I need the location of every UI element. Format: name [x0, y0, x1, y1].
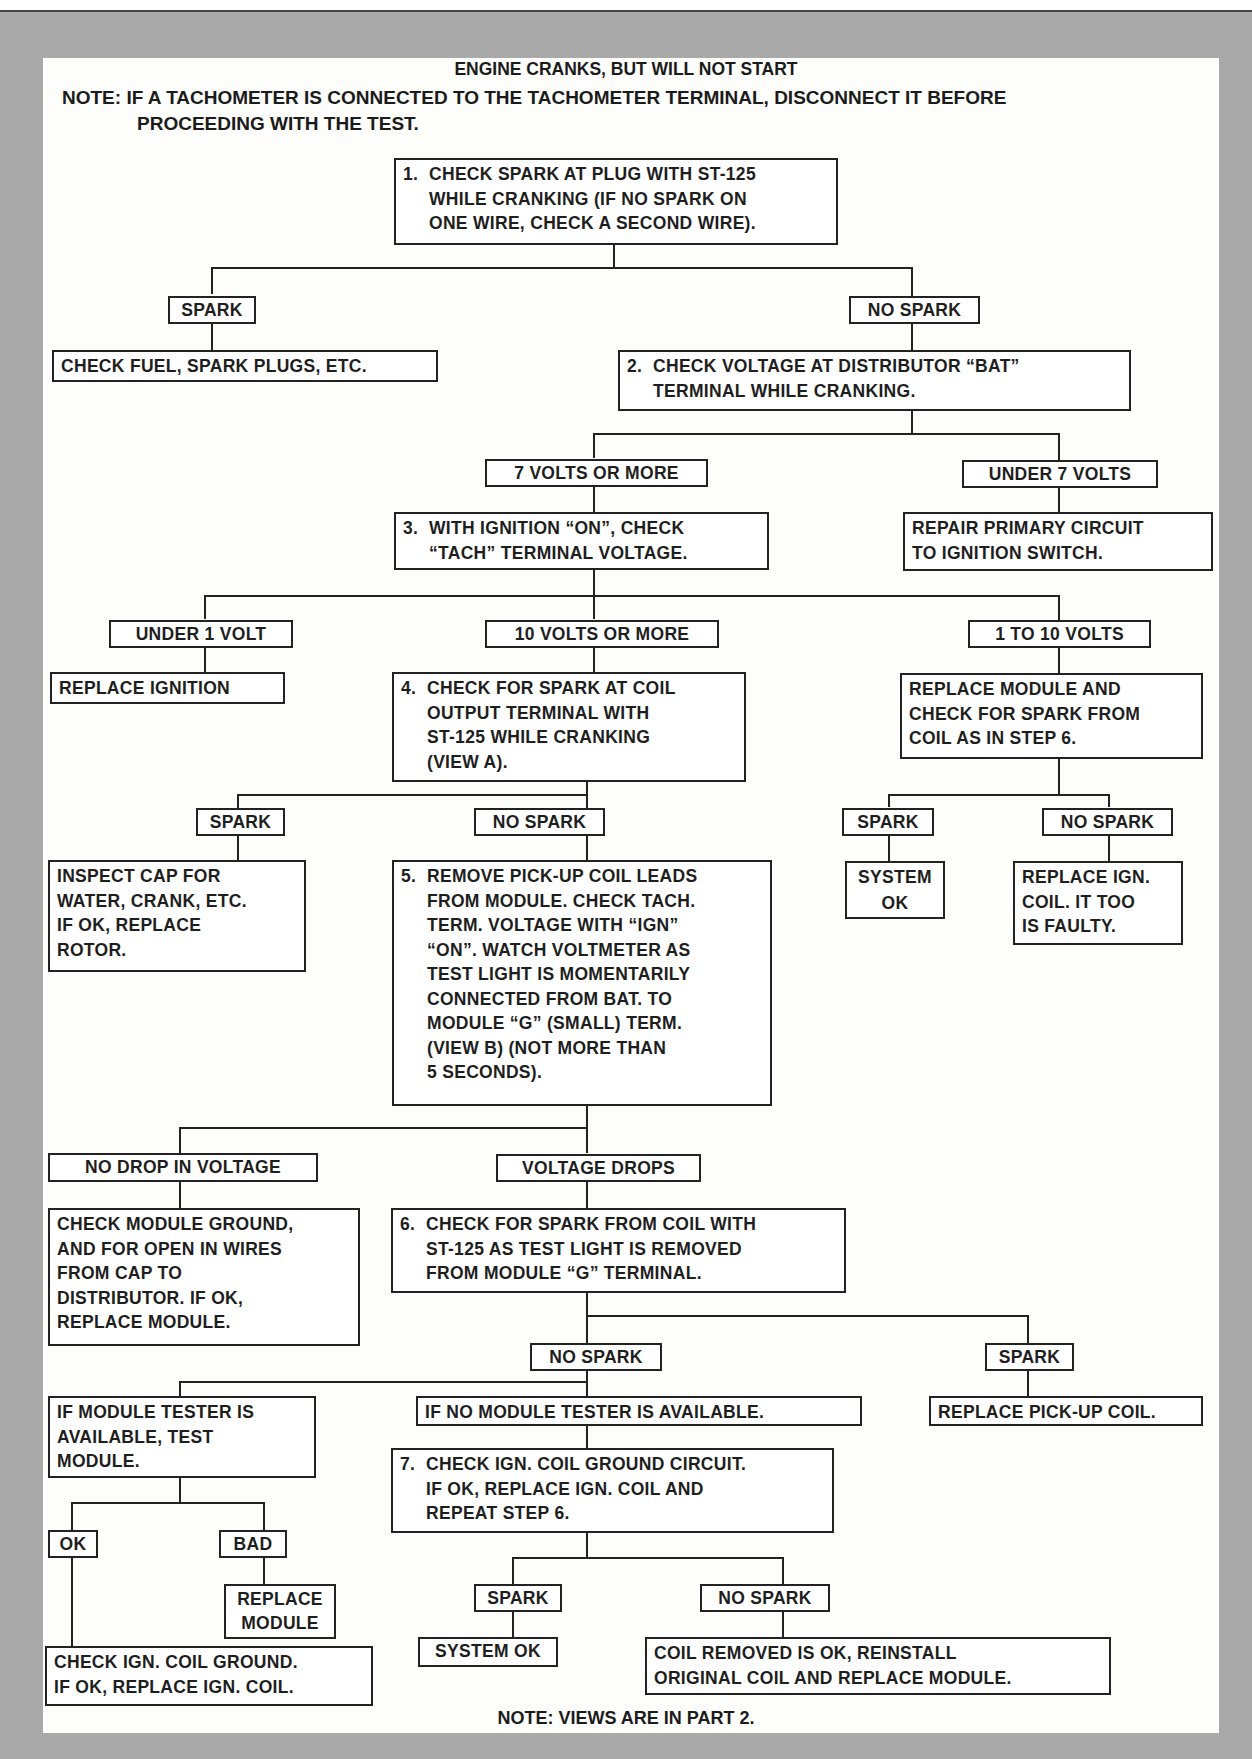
- box-text: ROTOR.: [57, 938, 297, 963]
- box-text: REPLACE MODULE AND: [909, 677, 1194, 702]
- step-number: 5.: [401, 864, 427, 889]
- step-text: CONNECTED FROM BAT. TO: [401, 987, 763, 1012]
- step-number: 7.: [400, 1452, 426, 1477]
- box-text: MODULE: [232, 1611, 328, 1635]
- box-text: REPLACE IGNITION: [59, 676, 276, 701]
- box-text: CHECK MODULE GROUND,: [57, 1212, 351, 1237]
- page-number: 166: [2, 0, 41, 3]
- under-one-volt-label: UNDER 1 VOLT: [109, 620, 293, 648]
- no-spark-label: NO SPARK: [849, 296, 980, 324]
- step-text: ST-125 WHILE CRANKING: [401, 725, 737, 750]
- box-text: IF OK, REPLACE: [57, 913, 297, 938]
- box-text: REPLACE PICK-UP COIL.: [938, 1400, 1194, 1425]
- box-text: REPLACE MODULE.: [57, 1310, 351, 1335]
- box-text: FROM CAP TO: [57, 1261, 351, 1286]
- spark-label: SPARK: [474, 1584, 562, 1612]
- under-seven-volts-label: UNDER 7 VOLTS: [962, 460, 1158, 488]
- box-text: SYSTEM: [853, 864, 937, 890]
- spark-label: SPARK: [985, 1343, 1074, 1371]
- coil-removed-ok-box: COIL REMOVED IS OK, REINSTALL ORIGINAL C…: [645, 1637, 1111, 1695]
- running-title: MOTOR AUTOMOTIVE MECHANICS: [70, 0, 461, 3]
- step-text: WHILE CRANKING (IF NO SPARK ON: [403, 187, 829, 212]
- box-text: WATER, CRANK, ETC.: [57, 889, 297, 914]
- box-text: INSPECT CAP FOR: [57, 864, 297, 889]
- voltage-drops-label: VOLTAGE DROPS: [496, 1154, 701, 1182]
- step-number: 3.: [403, 516, 429, 541]
- step-text: OUTPUT TERMINAL WITH: [401, 701, 737, 726]
- check-module-ground-box: CHECK MODULE GROUND, AND FOR OPEN IN WIR…: [48, 1208, 360, 1346]
- box-text: REPLACE IGN.: [1022, 865, 1174, 890]
- box-text: IF OK, REPLACE IGN. COIL.: [54, 1675, 364, 1700]
- step-text: CHECK IGN. COIL GROUND CIRCUIT.: [426, 1454, 746, 1474]
- step-text: CHECK FOR SPARK AT COIL: [427, 678, 676, 698]
- ok-label: OK: [48, 1530, 98, 1558]
- no-spark-label: NO SPARK: [1042, 808, 1173, 836]
- step-4-box: 4.CHECK FOR SPARK AT COIL OUTPUT TERMINA…: [392, 672, 746, 782]
- step-text: 5 SECONDS).: [401, 1060, 763, 1085]
- step-6-box: 6.CHECK FOR SPARK FROM COIL WITH ST-125 …: [391, 1208, 846, 1293]
- box-text: IF NO MODULE TESTER IS AVAILABLE.: [425, 1400, 853, 1425]
- replace-module-box: REPLACE MODULE: [224, 1584, 336, 1639]
- box-text: COIL. IT TOO: [1022, 890, 1174, 915]
- box-text: TO IGNITION SWITCH.: [912, 541, 1204, 566]
- seven-volts-or-more-label: 7 VOLTS OR MORE: [485, 459, 708, 487]
- box-text: IF MODULE TESTER IS: [57, 1400, 307, 1425]
- box-text: SYSTEM OK: [426, 1640, 550, 1662]
- step-number: 4.: [401, 676, 427, 701]
- inspect-cap-box: INSPECT CAP FOR WATER, CRANK, ETC. IF OK…: [48, 860, 306, 972]
- box-text: COIL REMOVED IS OK, REINSTALL: [654, 1641, 1102, 1666]
- box-text: CHECK FUEL, SPARK PLUGS, ETC.: [61, 354, 429, 379]
- step-text: REPEAT STEP 6.: [400, 1501, 825, 1526]
- step-text: CHECK VOLTAGE AT DISTRIBUTOR “BAT”: [653, 356, 1020, 376]
- step-text: MODULE “G” (SMALL) TERM.: [401, 1011, 763, 1036]
- step-text: CHECK FOR SPARK FROM COIL WITH: [426, 1214, 756, 1234]
- spark-label: SPARK: [842, 808, 934, 836]
- step-text: (VIEW A).: [401, 750, 737, 775]
- step-text: FROM MODULE. CHECK TACH.: [401, 889, 763, 914]
- box-text: REPAIR PRIMARY CIRCUIT: [912, 516, 1204, 541]
- step-7-box: 7.CHECK IGN. COIL GROUND CIRCUIT. IF OK,…: [391, 1448, 834, 1533]
- ten-volts-or-more-label: 10 VOLTS OR MORE: [485, 620, 719, 648]
- box-text: AND FOR OPEN IN WIRES: [57, 1237, 351, 1262]
- module-tester-available-box: IF MODULE TESTER IS AVAILABLE, TEST MODU…: [48, 1396, 316, 1478]
- step-text: ST-125 AS TEST LIGHT IS REMOVED: [400, 1237, 837, 1262]
- step-text: ONE WIRE, CHECK A SECOND WIRE).: [403, 211, 829, 236]
- step-text: IF OK, REPLACE IGN. COIL AND: [400, 1477, 825, 1502]
- check-fuel-box: CHECK FUEL, SPARK PLUGS, ETC.: [52, 350, 438, 382]
- step-number: 1.: [403, 162, 429, 187]
- step-text: FROM MODULE “G” TERMINAL.: [400, 1261, 837, 1286]
- replace-module-check-spark-box: REPLACE MODULE AND CHECK FOR SPARK FROM …: [900, 673, 1203, 759]
- no-drop-in-voltage-label: NO DROP IN VOLTAGE: [48, 1153, 318, 1182]
- check-ign-coil-ground-box: CHECK IGN. COIL GROUND. IF OK, REPLACE I…: [45, 1646, 373, 1706]
- box-text: CHECK IGN. COIL GROUND.: [54, 1650, 364, 1675]
- step-text: WITH IGNITION “ON”, CHECK: [429, 518, 684, 538]
- box-text: COIL AS IN STEP 6.: [909, 726, 1194, 751]
- bad-label: BAD: [219, 1530, 287, 1558]
- step-text: (VIEW B) (NOT MORE THAN: [401, 1036, 763, 1061]
- replace-pickup-coil-box: REPLACE PICK-UP COIL.: [929, 1396, 1203, 1426]
- step-text: TEST LIGHT IS MOMENTARILY: [401, 962, 763, 987]
- no-spark-label: NO SPARK: [700, 1584, 830, 1612]
- step-number: 6.: [400, 1212, 426, 1237]
- step-5-box: 5.REMOVE PICK-UP COIL LEADS FROM MODULE.…: [392, 860, 772, 1106]
- note-line-1: NOTE: IF A TACHOMETER IS CONNECTED TO TH…: [62, 85, 1006, 111]
- spark-label: SPARK: [196, 808, 285, 836]
- one-to-ten-volts-label: 1 TO 10 VOLTS: [968, 620, 1151, 648]
- step-text: REMOVE PICK-UP COIL LEADS: [427, 866, 697, 886]
- box-text: IS FAULTY.: [1022, 914, 1174, 939]
- step-3-box: 3.WITH IGNITION “ON”, CHECK “TACH” TERMI…: [394, 512, 769, 570]
- step-1-box: 1.CHECK SPARK AT PLUG WITH ST-125 WHILE …: [394, 158, 838, 245]
- step-text: “TACH” TERMINAL VOLTAGE.: [403, 541, 760, 566]
- running-header: 166 MOTOR AUTOMOTIVE MECHANICS: [0, 0, 1252, 12]
- chart-title: ENGINE CRANKS, BUT WILL NOT START: [50, 58, 1202, 80]
- box-text: CHECK FOR SPARK FROM: [909, 702, 1194, 727]
- note-line-2: PROCEEDING WITH THE TEST.: [137, 111, 419, 137]
- system-ok-box: SYSTEM OK: [845, 861, 945, 919]
- step-2-box: 2.CHECK VOLTAGE AT DISTRIBUTOR “BAT” TER…: [618, 350, 1131, 411]
- no-spark-label: NO SPARK: [530, 1343, 662, 1371]
- step-number: 2.: [627, 354, 653, 379]
- box-text: AVAILABLE, TEST: [57, 1425, 307, 1450]
- box-text: MODULE.: [57, 1449, 307, 1474]
- no-module-tester-box: IF NO MODULE TESTER IS AVAILABLE.: [416, 1396, 862, 1426]
- step-text: TERM. VOLTAGE WITH “IGN”: [401, 913, 763, 938]
